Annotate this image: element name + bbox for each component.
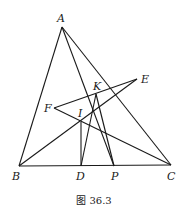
label-f: F [43,102,52,115]
label-p: P [110,170,119,183]
label-k: K [92,80,102,93]
segment-fc [54,108,171,165]
segment-ab [19,27,62,166]
label-i: I [77,107,83,120]
segment-ac [62,27,171,165]
label-e: E [140,73,149,86]
segments [19,27,171,166]
label-d: D [75,170,85,183]
figure-caption: 图 36.3 [0,192,188,207]
label-b: B [11,170,20,183]
label-c: C [167,170,176,183]
geometry-diagram: A B C D P E F I K [0,0,188,214]
point-labels: A B C D P E F I K [11,12,176,183]
segment-bc [19,165,171,166]
segment-be [19,79,137,166]
segment-kd [81,94,96,166]
label-a: A [56,12,65,25]
